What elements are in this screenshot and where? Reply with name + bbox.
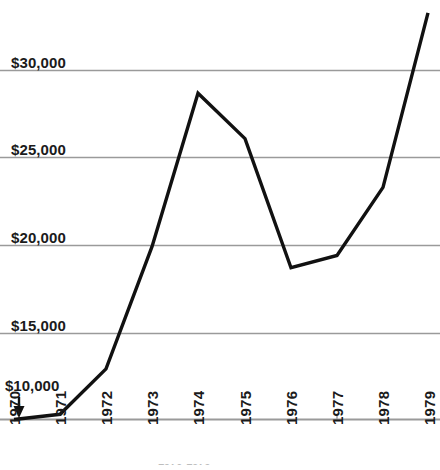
x-axis-label-1970: 1970 bbox=[7, 391, 22, 425]
chart-container: $30,000 $25,000 $20,000 $15,000 $10,000 … bbox=[0, 0, 440, 470]
x-axis-label-1974: 1974 bbox=[191, 391, 206, 425]
x-axis-label-1973: 1973 bbox=[145, 391, 160, 425]
x-axis-label-1972: 1972 bbox=[99, 391, 114, 425]
x-axis-label-1979: 1979 bbox=[422, 391, 437, 425]
y-axis-label-30000: $30,000 bbox=[11, 55, 66, 70]
x-axis-label-1977: 1977 bbox=[330, 391, 345, 425]
x-axis-label-1971: 1971 bbox=[53, 391, 68, 425]
plot-area: $30,000 $25,000 $20,000 $15,000 $10,000 … bbox=[0, 0, 440, 470]
y-axis-label-25000: $25,000 bbox=[11, 142, 66, 157]
x-axis-label-1978: 1978 bbox=[376, 391, 391, 425]
x-axis-label-1976: 1976 bbox=[284, 391, 299, 425]
gridlines bbox=[0, 71, 440, 420]
y-axis-label-15000: $15,000 bbox=[11, 318, 66, 333]
data-line-series bbox=[14, 13, 428, 420]
footer-cropped-caption: 1970-1979 bbox=[0, 464, 440, 470]
x-axis-label-1975: 1975 bbox=[238, 391, 253, 425]
y-axis-label-20000: $20,000 bbox=[11, 230, 66, 245]
footer-caption-text: 1970-1979 bbox=[158, 464, 211, 467]
